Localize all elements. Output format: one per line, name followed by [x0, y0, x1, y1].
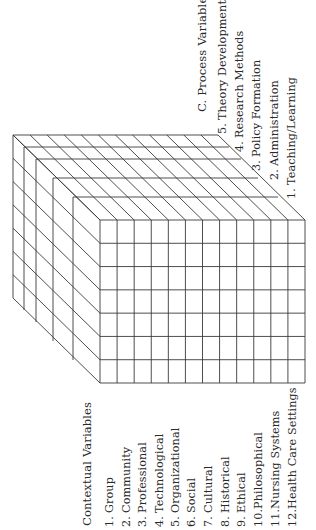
item-label: Health Care Settings: [286, 387, 299, 509]
item-number: 4.: [154, 513, 165, 527]
contextual-variable-item: 12.Health Care Settings: [287, 387, 298, 527]
process-variable-item: 1.Teaching/Learning: [286, 77, 297, 199]
contextual-variable-item: 1.Group: [104, 477, 115, 527]
contextual-variable-item: 7.Cultural: [203, 466, 214, 527]
item-label: Administration: [268, 80, 281, 166]
contextual-variable-item: 10.Philosophical: [253, 432, 264, 527]
contextual-variable-item: 6.Social: [186, 478, 197, 527]
contextual-variable-item: 4.Technological: [154, 434, 165, 528]
item-number: 11.: [270, 509, 281, 527]
item-number: 2.: [269, 166, 280, 180]
item-number: 7.: [203, 513, 214, 527]
cube-grid-lines: [13, 135, 305, 383]
item-number: 6.: [186, 513, 197, 527]
item-label: Philosophical: [252, 432, 265, 509]
item-number: 10.: [253, 509, 264, 527]
item-number: 12.: [287, 509, 298, 527]
item-label: Theory Development: [216, 0, 229, 120]
item-label: Technological: [153, 434, 166, 514]
item-label: Research Methods: [233, 31, 246, 138]
item-label: Social: [185, 478, 198, 513]
item-number: 1.: [286, 185, 297, 199]
item-label: Teaching/Learning: [285, 77, 298, 185]
contextual-variable-item: 11.Nursing Systems: [270, 411, 281, 527]
item-number: 4.: [234, 138, 245, 152]
process-variables-heading: C. Process Variables: [197, 0, 209, 112]
item-label: Ethical: [235, 472, 248, 513]
contextual-variable-item: 5.Organizational: [170, 428, 181, 527]
item-number: 9.: [236, 513, 247, 527]
item-label: Organizational: [169, 428, 182, 513]
item-label: Professional: [136, 442, 149, 513]
process-variable-item: 4.Research Methods: [234, 31, 245, 152]
item-number: 8.: [220, 513, 231, 527]
item-number: 5.: [217, 120, 228, 134]
item-number: 1.: [104, 513, 115, 527]
process-variable-item: 2.Administration: [269, 80, 280, 180]
contextual-variable-item: 2.Community: [121, 447, 132, 527]
process-variable-item: 5.Theory Development: [217, 0, 228, 134]
item-label: Group: [103, 477, 116, 513]
contextual-variables-heading: Contextual Variables: [82, 402, 94, 526]
contextual-variable-item: 3.Professional: [137, 442, 148, 527]
item-number: 2.: [121, 513, 132, 527]
item-label: Community: [120, 447, 133, 513]
item-number: 3.: [137, 513, 148, 527]
contextual-variable-item: 8.Historical: [220, 456, 231, 527]
item-label: Historical: [219, 456, 232, 513]
item-label: Policy Formation: [250, 60, 263, 157]
item-number: 5.: [170, 513, 181, 527]
process-variable-item: 3.Policy Formation: [251, 60, 262, 171]
item-number: 3.: [251, 157, 262, 171]
item-label: Cultural: [202, 466, 215, 513]
item-label: Nursing Systems: [269, 411, 282, 509]
contextual-variable-item: 9.Ethical: [236, 472, 247, 527]
